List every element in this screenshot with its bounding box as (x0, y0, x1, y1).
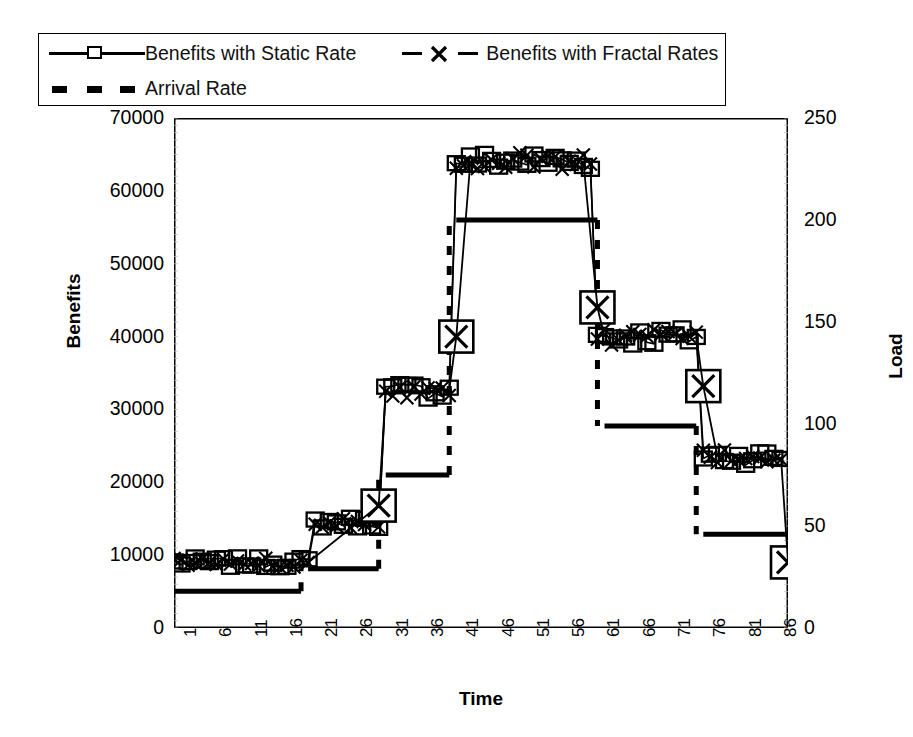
y-tick-right-100: 100 (804, 412, 874, 435)
plot-area (174, 118, 788, 628)
legend-entry-static-rate[interactable]: Benefits with Static Rate (49, 41, 356, 65)
y-tick-left-0: 0 (54, 616, 164, 639)
y-tick-left-70000: 70000 (54, 106, 164, 129)
chart-figure: Benefits with Static Rate Benefits with … (0, 0, 913, 737)
legend-label-static-rate: Benefits with Static Rate (145, 42, 356, 65)
thick-dashed-line-icon (49, 76, 145, 100)
y-tick-left-20000: 20000 (54, 470, 164, 493)
y-tick-left-60000: 60000 (54, 179, 164, 202)
legend-row-2: Arrival Rate (39, 71, 247, 105)
y-axis-title-load: Load (885, 296, 907, 416)
y-tick-left-50000: 50000 (54, 252, 164, 275)
chart-legend: Benefits with Static Rate Benefits with … (38, 33, 726, 106)
y-tick-left-30000: 30000 (54, 397, 164, 420)
y-tick-right-50: 50 (804, 514, 874, 537)
x-tick-6: 6 (216, 628, 236, 637)
fractal-rates-x-marker (400, 391, 413, 404)
x-tick-1: 1 (181, 628, 201, 637)
legend-row-1: Benefits with Static Rate Benefits with … (39, 36, 718, 70)
legend-entry-fractal-rates[interactable]: Benefits with Fractal Rates (400, 41, 718, 65)
x-cross-glyph (427, 42, 451, 66)
y-tick-left-40000: 40000 (54, 325, 164, 348)
legend-entry-arrival-rate[interactable]: Arrival Rate (49, 76, 247, 100)
fractal-rates-line (174, 153, 781, 567)
y-tick-right-200: 200 (804, 208, 874, 231)
y-tick-left-10000: 10000 (54, 543, 164, 566)
dashed-line-x-marker-icon (400, 41, 486, 65)
solid-line-open-square-marker-icon (49, 41, 145, 65)
y-tick-right-0: 0 (804, 616, 874, 639)
series-connector-3 (456, 161, 470, 337)
fractal-rates-highlight-box (771, 546, 788, 578)
static-rate-line (174, 154, 781, 567)
legend-label-arrival-rate: Arrival Rate (145, 77, 247, 100)
series-arrival-rate (174, 220, 788, 591)
legend-label-fractal-rates: Benefits with Fractal Rates (486, 42, 718, 65)
x-axis-title-time: Time (174, 688, 788, 710)
plot-svg (174, 118, 788, 628)
y-tick-right-150: 150 (804, 310, 874, 333)
y-tick-right-250: 250 (804, 106, 874, 129)
